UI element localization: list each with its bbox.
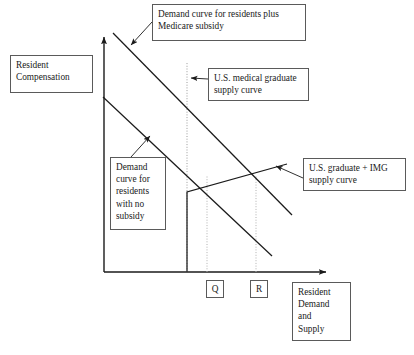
callout-demand-with-subsidy: Demand curve for residents plus Medicare… [152,4,306,41]
x-axis-label-box: Resident Demand and Supply [292,282,351,341]
leader-usmg-supply [191,78,208,79]
y-axis-label-box: Resident Compensation [10,55,93,93]
diagram-canvas: Resident Compensation Demand curve for r… [0,0,414,355]
leader-img-supply [276,166,303,178]
callout-usmg-supply: U.S. medical graduate supply curve [208,68,309,101]
tick-label-q: Q [206,280,224,298]
leader-demand-no-subsidy [131,136,150,157]
callout-demand-no-subsidy: Demand curve for residents with no subsi… [110,157,166,230]
callout-img-supply: U.S. graduate + IMG supply curve [303,158,406,191]
tick-label-r: R [250,280,268,298]
leader-demand-subsidy [131,22,152,45]
